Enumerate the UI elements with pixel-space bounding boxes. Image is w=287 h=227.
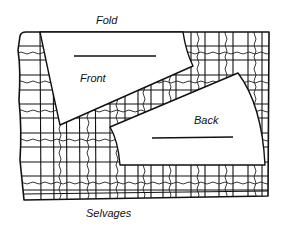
front-label: Front	[80, 72, 107, 84]
pattern-layout-diagram: Fold Front Back Selvages	[0, 0, 287, 227]
back-label: Back	[194, 114, 219, 126]
fold-label: Fold	[96, 14, 118, 26]
selvages-label: Selvages	[86, 207, 132, 219]
